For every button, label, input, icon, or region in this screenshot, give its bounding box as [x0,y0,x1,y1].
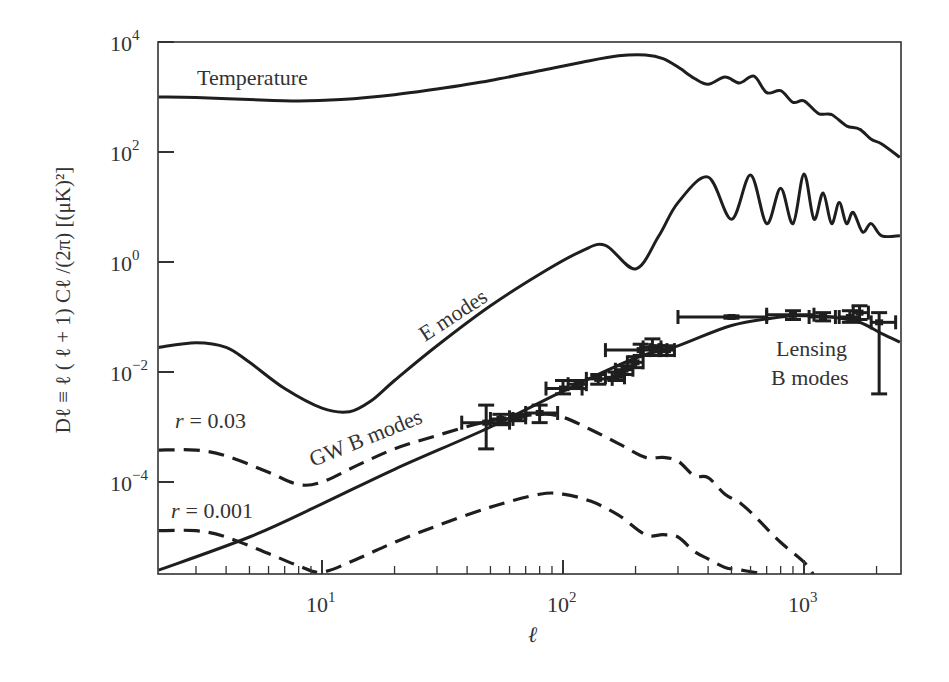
label-temperature: Temperature [197,65,308,90]
plot-frame [158,42,901,574]
data-point [871,313,895,394]
y-axis-label: Dℓ ≡ ℓ ( ℓ + 1) Cℓ /(2π) [(μK)²] [51,167,75,433]
y-tick-label: 104 [110,27,140,56]
data-point [615,363,632,377]
x-tick-label: 101 [306,589,336,617]
data-point [852,306,869,320]
y-tick-label: 10−4 [110,467,148,496]
y-tick-label: 10−2 [110,357,148,386]
x-axis-label: ℓ [528,622,538,647]
y-tick-label: 100 [110,247,140,276]
label-r-003: r= 0.03 [175,408,246,433]
r-symbol: r [171,498,180,523]
label-lensing-b-modes: B modes [771,365,849,390]
cmb-power-spectrum-chart: 101102103 10410210010−210−4 Temperature … [0,0,949,682]
data-point [568,377,586,391]
label-lensing: Lensing [776,336,847,361]
r-value: = 0.03 [190,408,246,433]
label-gw-b-modes: GW B modes [306,404,426,472]
x-axis-ticks: 101102103 [196,560,877,617]
y-tick-label: 102 [110,137,140,166]
data-point [767,308,814,322]
x-tick-label: 103 [788,589,818,617]
x-tick-label: 102 [547,589,577,617]
data-point [659,343,675,357]
data-point [627,355,643,369]
r-symbol: r [175,408,184,433]
label-r-0001: r= 0.001 [171,498,253,523]
data-point [586,372,612,386]
r-value: = 0.001 [186,498,253,523]
